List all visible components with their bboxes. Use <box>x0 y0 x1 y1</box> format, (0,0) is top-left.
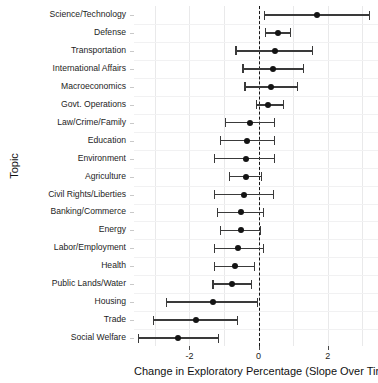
error-bar-cap-low <box>235 46 236 55</box>
error-bar-cap-low <box>212 280 213 289</box>
gridline-horizontal <box>134 132 378 133</box>
y-axis-tick-mark <box>130 141 134 142</box>
data-point <box>275 30 281 36</box>
x-axis-tick-label: 2 <box>325 351 330 361</box>
error-bar-cap-high <box>257 298 258 307</box>
data-point <box>232 263 238 269</box>
y-axis-tick-mark <box>130 51 134 52</box>
y-axis-tick-mark <box>130 302 134 303</box>
error-bar-cap-low <box>214 244 215 253</box>
x-axis-tick-mark <box>259 346 260 350</box>
error-bar-cap-high <box>218 334 219 343</box>
error-bar-cap-high <box>303 64 304 73</box>
gridline-horizontal <box>134 204 378 205</box>
y-axis-tick-mark <box>130 33 134 34</box>
y-axis-tick-mark <box>130 212 134 213</box>
data-point <box>272 48 278 54</box>
gridline-horizontal <box>134 114 378 115</box>
y-axis-labels: Science/TechnologyDefenseTransportationI… <box>0 0 130 383</box>
error-bar-cap-high <box>274 154 275 163</box>
error-bar-cap-low <box>244 82 245 91</box>
gridline-horizontal <box>134 96 378 97</box>
y-axis-tick-label: Labor/Employment <box>54 243 126 252</box>
error-bar-cap-high <box>263 208 264 217</box>
gridline-horizontal <box>134 275 378 276</box>
y-axis-tick-label: Govt. Operations <box>61 100 126 109</box>
gridline-horizontal <box>134 168 378 169</box>
data-point <box>270 66 276 72</box>
gridline-horizontal <box>134 311 378 312</box>
y-axis-tick-label: International Affairs <box>53 64 126 73</box>
y-axis-tick-label: Public Lands/Water <box>52 279 126 288</box>
y-axis-tick-mark <box>130 248 134 249</box>
data-point <box>238 209 244 215</box>
error-bar-cap-low <box>265 28 266 37</box>
y-axis-tick-label: Housing <box>94 297 126 306</box>
error-bar-cap-high <box>297 82 298 91</box>
x-axis: Change in Exploratory Percentage (Slope … <box>134 346 378 383</box>
data-point <box>238 227 244 233</box>
plot-area <box>134 6 378 346</box>
y-axis-tick-mark <box>130 105 134 106</box>
gridline-horizontal <box>134 186 378 187</box>
y-axis-tick-label: Social Welfare <box>71 333 126 342</box>
error-bar-cap-low <box>220 226 221 235</box>
gridline-vertical <box>293 6 294 346</box>
y-axis-tick-mark <box>130 320 134 321</box>
data-point <box>210 299 216 305</box>
error-bar-cap-low <box>217 208 218 217</box>
gridline-horizontal <box>134 24 378 25</box>
y-axis-tick-mark <box>130 123 134 124</box>
y-axis-tick-label: Civil Rights/Liberties <box>48 190 126 199</box>
x-axis-tick-label: -2 <box>185 351 193 361</box>
gridline-horizontal <box>134 60 378 61</box>
x-axis-tick-mark <box>328 346 329 350</box>
error-bar-cap-high <box>290 28 291 37</box>
data-point <box>241 192 247 198</box>
data-point <box>175 335 181 341</box>
error-bar-cap-high <box>263 244 264 253</box>
error-bar-cap-low <box>264 11 265 20</box>
x-axis-title: Change in Exploratory Percentage (Slope … <box>134 365 378 377</box>
data-point <box>314 12 320 18</box>
error-bar-cap-high <box>237 316 238 325</box>
x-axis-tick-label: 0 <box>256 351 261 361</box>
y-axis-tick-label: Defense <box>94 28 126 37</box>
y-axis-tick-mark <box>130 69 134 70</box>
data-point <box>193 317 199 323</box>
error-bar-cap-low <box>229 172 230 181</box>
data-point <box>268 84 274 90</box>
y-axis-tick-label: Transportation <box>71 46 126 55</box>
error-bar-cap-high <box>312 46 313 55</box>
data-point <box>243 174 249 180</box>
y-axis-tick-label: Energy <box>99 225 126 234</box>
data-point <box>244 138 250 144</box>
gridline-horizontal <box>134 239 378 240</box>
y-axis-tick-label: Agriculture <box>85 172 126 181</box>
error-bar-cap-high <box>273 190 274 199</box>
error-bar-cap-low <box>220 136 221 145</box>
gridline-vertical <box>328 6 329 346</box>
y-axis-tick-label: Education <box>88 136 126 145</box>
y-axis-tick-mark <box>130 230 134 231</box>
gridline-horizontal <box>134 150 378 151</box>
gridline-horizontal <box>134 42 378 43</box>
error-bar-cap-low <box>242 64 243 73</box>
error-bar-cap-low <box>138 334 139 343</box>
error-bar-cap-low <box>225 118 226 127</box>
error-bar-cap-high <box>254 262 255 271</box>
data-point <box>243 156 249 162</box>
error-bar-cap-low <box>214 190 215 199</box>
error-bar-cap-low <box>153 316 154 325</box>
error-bar-cap-high <box>260 226 261 235</box>
gridline-horizontal <box>134 221 378 222</box>
error-bar-cap-high <box>369 11 370 20</box>
gridline-vertical <box>362 6 363 346</box>
data-point <box>229 281 235 287</box>
gridline-vertical <box>224 6 225 346</box>
y-axis-tick-mark <box>130 159 134 160</box>
gridline-horizontal <box>134 293 378 294</box>
error-bar-cap-high <box>274 136 275 145</box>
gridline-horizontal <box>134 78 378 79</box>
y-axis-tick-label: Environment <box>78 154 126 163</box>
